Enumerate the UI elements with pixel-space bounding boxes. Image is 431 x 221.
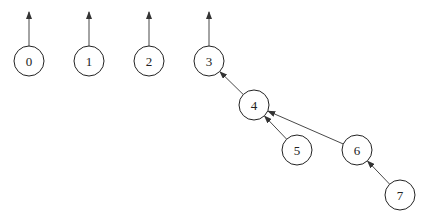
node-4: 4: [239, 90, 269, 120]
node-0: 0: [14, 46, 44, 76]
node-label: 4: [251, 98, 258, 113]
edge-4-to-3: [220, 72, 243, 95]
node-2: 2: [134, 46, 164, 76]
edges-layer: [29, 12, 390, 184]
node-7: 7: [385, 180, 415, 210]
node-3: 3: [194, 46, 224, 76]
node-label: 2: [146, 54, 153, 69]
node-5: 5: [282, 135, 312, 165]
edge-5-to-4: [265, 116, 287, 139]
node-label: 7: [397, 188, 404, 203]
node-label: 6: [354, 143, 361, 158]
nodes-layer: 01234567: [14, 46, 415, 210]
node-6: 6: [342, 135, 372, 165]
node-label: 5: [294, 143, 301, 158]
edge-7-to-6: [368, 161, 390, 184]
node-1: 1: [74, 46, 104, 76]
node-label: 3: [206, 54, 213, 69]
node-label: 0: [26, 54, 33, 69]
node-label: 1: [86, 54, 93, 69]
union-find-diagram: 01234567: [0, 0, 431, 221]
